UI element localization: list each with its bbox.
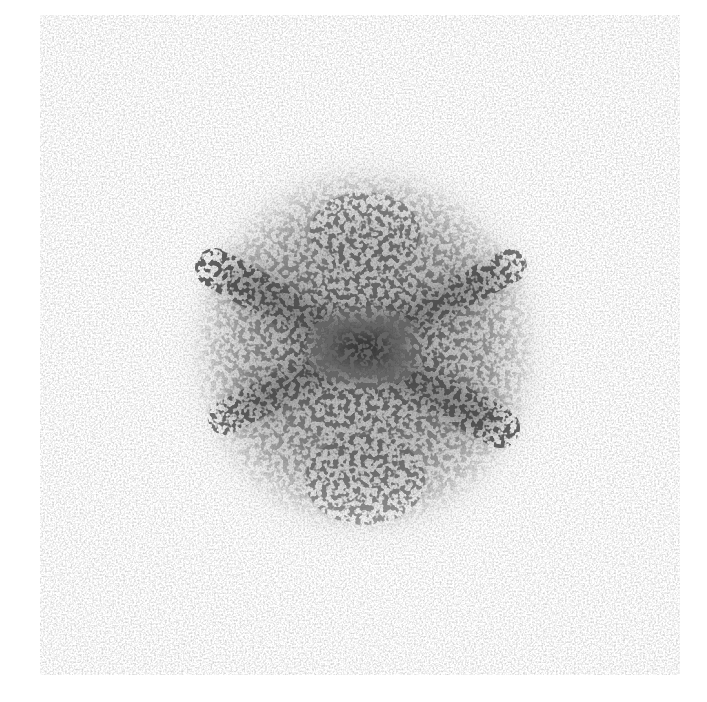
core-speckle bbox=[305, 306, 425, 390]
speckle-pattern-svg bbox=[0, 0, 707, 702]
speckle-pattern-image bbox=[0, 0, 707, 702]
